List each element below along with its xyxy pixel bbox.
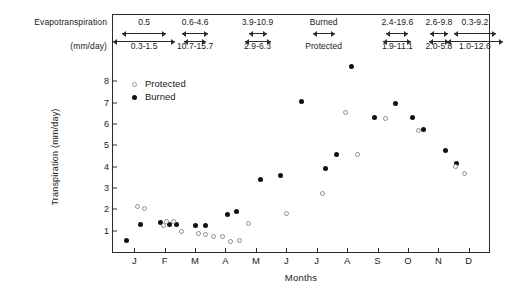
y-axis-title: Transpiration (mm/day) [48, 60, 62, 253]
data-point-protected [320, 191, 325, 196]
x-axis-tick [134, 248, 135, 252]
data-point-burned [258, 177, 263, 182]
data-point-burned [234, 209, 239, 214]
data-point-burned [393, 101, 398, 106]
x-axis-tick-label: A [344, 255, 350, 266]
y-axis-tick [113, 209, 117, 210]
y-axis-tick-label: 8 [104, 76, 109, 86]
range-arrow-icon [249, 30, 267, 37]
data-point-protected [416, 128, 421, 133]
data-point-protected [161, 223, 166, 228]
range-arrow-icon [313, 30, 335, 37]
x-axis-tick [347, 248, 348, 252]
x-axis-tick [378, 248, 379, 252]
data-point-protected [284, 211, 289, 216]
y-axis-tick [113, 102, 117, 103]
x-axis-tick-label: N [435, 255, 442, 266]
data-point-protected [135, 204, 140, 209]
data-point-burned [323, 166, 328, 171]
data-point-protected [228, 239, 233, 244]
y-axis-title-text: Transpiration (mm/day) [50, 108, 60, 205]
data-point-protected [462, 171, 467, 176]
data-point-burned [203, 223, 208, 228]
x-axis-tick-label: M [191, 255, 199, 266]
range-arrow-icon [454, 30, 496, 37]
y-axis-tick [113, 124, 117, 125]
y-axis-tick-label: 3 [104, 183, 109, 193]
x-axis-tick-label: J [284, 255, 289, 266]
data-point-protected [343, 110, 348, 115]
x-axis-tick [317, 248, 318, 252]
x-axis-tick-label: J [132, 255, 137, 266]
filled-circle-icon [132, 95, 137, 100]
range-arrow-icon [245, 38, 271, 45]
data-point-protected [142, 206, 147, 211]
y-axis-tick-label: 5 [104, 140, 109, 150]
data-point-protected [171, 219, 176, 224]
y-axis-tick [113, 188, 117, 189]
open-circle-icon [132, 82, 137, 87]
legend-item: Burned [131, 91, 186, 104]
data-point-burned [193, 223, 198, 228]
data-point-burned [138, 222, 143, 227]
x-axis-tick-label: M [252, 255, 260, 266]
x-axis-tick [438, 248, 439, 252]
x-axis-tick [195, 248, 196, 252]
x-axis-tick-label: J [314, 255, 319, 266]
data-point-protected [211, 234, 216, 239]
y-axis-tick [113, 166, 117, 167]
x-axis-tick [165, 248, 166, 252]
y-axis-tick-label: 1 [104, 226, 109, 236]
x-axis-tick [286, 248, 287, 252]
data-point-burned [443, 148, 448, 153]
data-point-protected [237, 238, 242, 243]
data-point-burned [421, 127, 426, 132]
x-axis-title: Months [112, 272, 490, 283]
x-axis-tick-label: F [162, 255, 168, 266]
evapotranspiration-label: Evapotranspiration [34, 17, 107, 27]
data-point-protected [179, 229, 184, 234]
x-axis-tick-label: D [465, 255, 472, 266]
data-point-burned [299, 99, 304, 104]
data-point-protected [220, 234, 225, 239]
legend: ProtectedBurned [131, 78, 186, 104]
range-arrow-icon [447, 38, 503, 45]
data-point-burned [334, 152, 339, 157]
data-point-burned [349, 64, 354, 69]
evapotranspiration-column: 0.3-9.21.0-12.6 [432, 14, 507, 60]
y-axis-tick-label: 7 [104, 98, 109, 108]
legend-item-label: Burned [145, 91, 176, 102]
data-point-burned [278, 173, 283, 178]
x-axis-tick [256, 248, 257, 252]
data-point-protected [355, 152, 360, 157]
data-point-protected [383, 116, 388, 121]
y-axis-tick [113, 81, 117, 82]
y-axis-tick [113, 230, 117, 231]
data-point-protected [246, 221, 251, 226]
data-point-protected [164, 219, 169, 224]
header-side-labels: Evapotranspiration (mm/day) [0, 14, 110, 60]
x-axis-tick-label: A [222, 255, 228, 266]
evapotranspiration-burned-value: 0.3-9.2 [432, 17, 507, 27]
y-axis-tick-label: 4 [104, 162, 109, 172]
data-point-burned [372, 115, 377, 120]
y-axis-tick-label: 2 [104, 204, 109, 214]
data-point-protected [196, 231, 201, 236]
data-point-burned [225, 212, 230, 217]
data-point-protected [203, 232, 208, 237]
data-point-burned [410, 115, 415, 120]
legend-item: Protected [131, 78, 186, 91]
x-axis-tick-label: S [374, 255, 380, 266]
data-point-protected [453, 164, 458, 169]
x-axis-tick [469, 248, 470, 252]
y-axis-tick-label: 6 [104, 119, 109, 129]
legend-item-label: Protected [145, 78, 186, 89]
y-axis-tick [113, 145, 117, 146]
x-axis-tick [408, 248, 409, 252]
plot-area: 12345678JFMAMJJASOND ProtectedBurned [112, 60, 490, 253]
data-point-burned [124, 238, 129, 243]
x-axis-tick-label: O [404, 255, 411, 266]
x-axis-tick [225, 248, 226, 252]
range-arrow-icon [182, 30, 208, 37]
